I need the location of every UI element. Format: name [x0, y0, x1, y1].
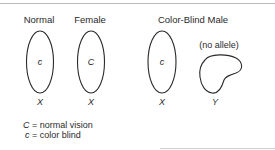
label-x-female-2: X	[88, 97, 94, 107]
allele-female-1: c	[38, 57, 43, 67]
allele-female-2: C	[88, 57, 95, 67]
male-y-chromosome	[200, 55, 242, 93]
legend-symbol: C	[23, 120, 30, 130]
legend-symbol: c	[25, 130, 30, 140]
allele-male-y: (no allele)	[199, 40, 239, 50]
label-x-male: X	[159, 97, 165, 107]
legend-text: = color blind	[32, 130, 81, 140]
legend-color-blind: c = color blind	[25, 130, 81, 140]
bottom-border-rule	[160, 148, 275, 149]
legend-text: = normal vision	[32, 120, 93, 130]
label-y-male: Y	[212, 97, 218, 107]
legend-normal-vision: C = normal vision	[23, 120, 93, 130]
allele-male-x: c	[160, 57, 165, 67]
label-x-female-1: X	[37, 97, 43, 107]
